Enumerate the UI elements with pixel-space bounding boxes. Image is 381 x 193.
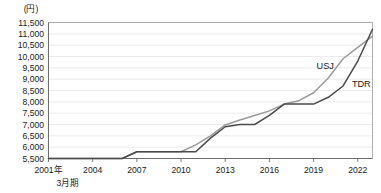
series-lines-group [49,29,373,158]
x-axis-tick-label: 2001年 [34,164,62,175]
line-chart: 5,5006,0006,5007,0007,5008,0008,5009,000… [0,0,381,193]
y-axis-tick-label: 7,000 [22,120,44,130]
y-axis-tick-labels: 5,5006,0006,5007,0007,5008,0008,5009,000… [18,18,45,164]
y-axis-tick-label: 8,500 [22,86,44,96]
x-axis-tick-label: 2007 [127,165,146,175]
y-axis-tick-label: 10,000 [18,52,45,62]
y-axis-tick-label: 7,500 [22,108,44,118]
series-line-usj [49,36,373,158]
x-axis-tick-label: 2022 [348,165,367,175]
series-label-tdr: TDR [352,79,371,89]
x-axis-tick-label: 2010 [171,165,190,175]
x-axis-first-tick-sublabel: 3月期 [57,178,80,188]
series-line-tdr [49,29,373,158]
series-label-usj: USJ [317,61,334,71]
x-axis-tick-label: 2016 [260,165,279,175]
y-axis-unit-label: (円) [24,4,39,14]
x-axis-tick-label: 2013 [216,165,235,175]
y-axis-tick-label: 6,000 [22,142,44,152]
y-axis-tick-label: 11,000 [18,29,44,39]
x-axis-tick-labels: 2001年2004200720102013201620192022 [34,164,367,175]
chart-container: 5,5006,0006,5007,0007,5008,0008,5009,000… [0,0,381,193]
y-axis-tick-label: 5,500 [22,154,44,164]
x-axis-tick-label: 2019 [304,165,323,175]
x-axis-tick-label: 2004 [83,165,102,175]
y-axis-tick-label: 9,500 [22,63,44,73]
y-axis-tick-label: 6,500 [22,131,44,141]
y-axis-tick-label: 9,000 [22,74,44,84]
y-axis-tick-label: 11,500 [18,18,44,28]
y-axis-tick-label: 10,500 [18,40,45,50]
y-axis-tick-label: 8,000 [22,97,44,107]
